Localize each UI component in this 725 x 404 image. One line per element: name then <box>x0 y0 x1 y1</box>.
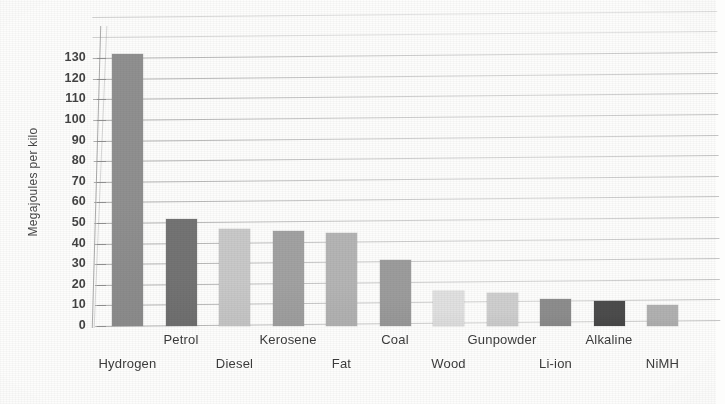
bar-fat[interactable] <box>326 233 357 326</box>
bar-hydrogen[interactable] <box>112 54 143 326</box>
x-tick-label-alkaline: Alkaline <box>559 332 659 347</box>
bar-wood[interactable] <box>433 291 464 326</box>
x-tick-label-hydrogen: Hydrogen <box>78 356 178 371</box>
bar-gunpowder[interactable] <box>487 293 518 326</box>
x-tick-label-coal: Coal <box>345 332 445 347</box>
bar-diesel[interactable] <box>219 229 250 326</box>
x-tick-label-gunpowder: Gunpowder <box>452 332 552 347</box>
x-tick-label-kerosene: Kerosene <box>238 332 338 347</box>
bar-coal[interactable] <box>380 260 411 326</box>
x-tick-label-petrol: Petrol <box>131 332 231 347</box>
bar-alkaline[interactable] <box>594 301 625 326</box>
bar-nimh[interactable] <box>647 305 678 326</box>
x-tick-label-nimh: NiMH <box>613 356 713 371</box>
x-tick-label-fat: Fat <box>292 356 392 371</box>
x-tick-label-wood: Wood <box>399 356 499 371</box>
bar-kerosene[interactable] <box>273 231 304 326</box>
bar-petrol[interactable] <box>166 219 197 326</box>
bar-li-ion[interactable] <box>540 299 571 326</box>
x-tick-label-diesel: Diesel <box>185 356 285 371</box>
x-tick-label-li-ion: Li-ion <box>506 356 606 371</box>
